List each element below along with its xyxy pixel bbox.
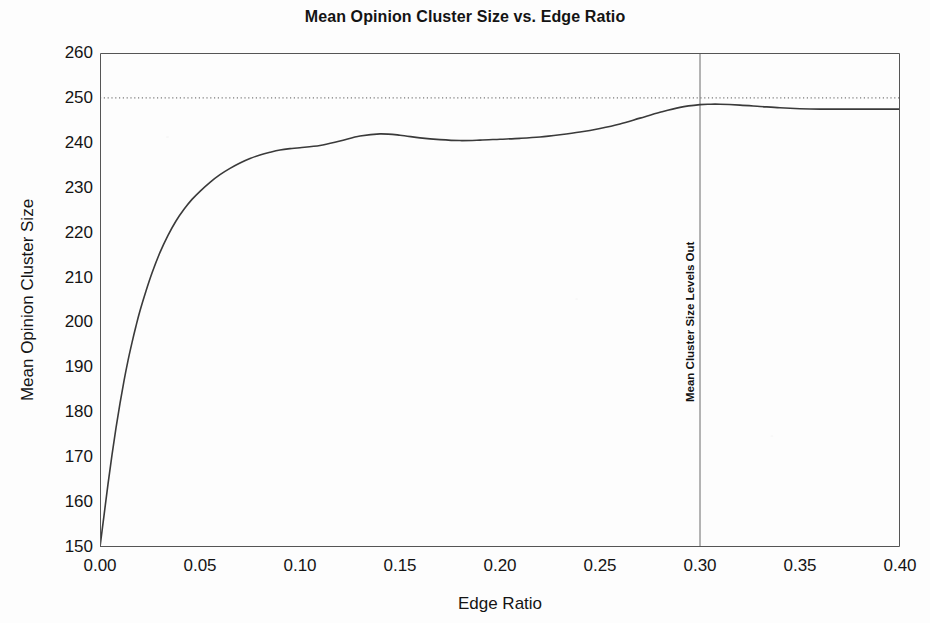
y-tick-label: 200 [65,312,93,332]
y-tick-label: 220 [65,223,93,243]
data-series [100,104,900,547]
x-tick-label: 0.10 [283,556,316,576]
y-tick-label: 170 [65,447,93,467]
plot-area: Mean Opinion Cluster Size Edge Ratio 150… [100,53,900,547]
annotation-levels-out: Mean Cluster Size Levels Out [684,241,696,401]
x-tick-label: 0.20 [483,556,516,576]
y-tick-label: 240 [65,133,93,153]
y-tick-label: 260 [65,43,93,63]
x-tick-label: 0.40 [883,556,916,576]
x-tick-label: 0.25 [583,556,616,576]
series-line [100,104,900,547]
y-tick-label: 190 [65,357,93,377]
y-tick-label: 160 [65,492,93,512]
y-tick-label: 250 [65,88,93,108]
x-tick-label: 0.15 [383,556,416,576]
y-tick-label: 230 [65,178,93,198]
x-tick-label: 0.30 [683,556,716,576]
plot-canvas [100,53,900,547]
x-axis-title: Edge Ratio [100,594,900,614]
x-tick-label: 0.05 [183,556,216,576]
page-title: Mean Opinion Cluster Size vs. Edge Ratio [0,8,930,26]
axis-frame [101,54,900,547]
x-tick-label: 0.00 [83,556,116,576]
axis-ticks [100,53,900,547]
x-tick-label: 0.35 [783,556,816,576]
y-axis-title: Mean Opinion Cluster Size [18,90,38,510]
y-tick-label: 180 [65,402,93,422]
reference-lines [100,53,900,547]
chart-figure: Mean Opinion Cluster Size vs. Edge Ratio… [0,0,930,623]
y-tick-label: 150 [65,537,93,557]
y-tick-label: 210 [65,268,93,288]
